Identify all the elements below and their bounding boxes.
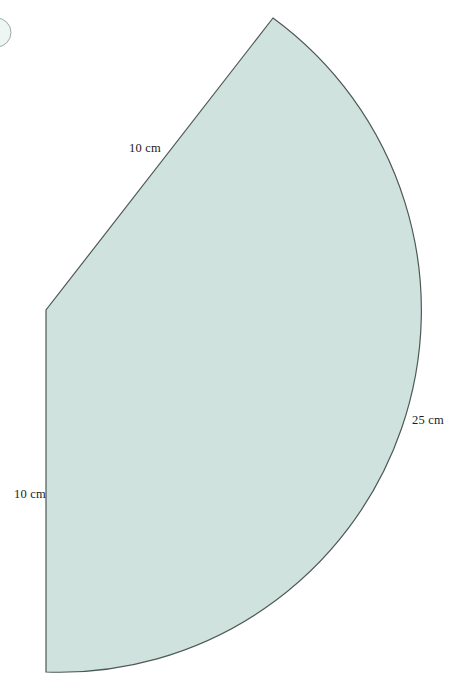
- question-number-bubble: [0, 18, 11, 47]
- sector-diagram: 10 cm 10 cm 25 cm: [0, 0, 467, 694]
- arc-length-label: 25 cm: [412, 413, 444, 427]
- left-edge-label: 10 cm: [14, 487, 46, 501]
- figure-canvas: 10 cm 10 cm 25 cm: [0, 0, 467, 694]
- slant-edge-label: 10 cm: [129, 141, 161, 155]
- sector-shape: [46, 18, 421, 672]
